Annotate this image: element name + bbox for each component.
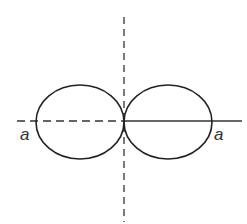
- right-a-label: a: [214, 126, 223, 143]
- left-lobe: [36, 85, 124, 159]
- left-a-label: a: [20, 126, 29, 143]
- right-lobe: [124, 85, 212, 159]
- lobe-diagram: [0, 0, 247, 224]
